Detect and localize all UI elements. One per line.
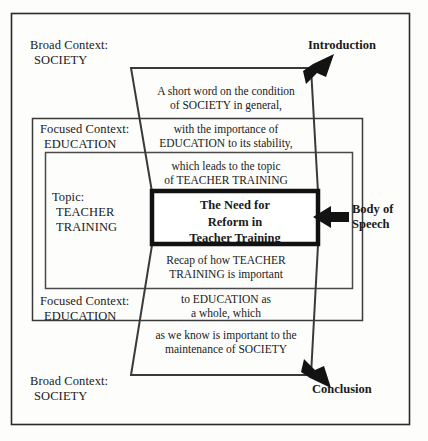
funnel-segment-1-line2: of SOCIETY in general,: [170, 99, 282, 111]
callout-introduction-label: Introduction: [308, 38, 376, 53]
context-label-broad-bottom-line2: SOCIETY: [30, 389, 108, 404]
core-topic-line2: Reform in: [208, 215, 263, 229]
core-topic-line3: Teacher Training: [189, 231, 281, 245]
context-label-focused-top-line2: EDUCATION: [40, 137, 129, 152]
funnel-segment-1-line1: A short word on the condition: [157, 85, 295, 97]
context-label-broad-bottom: Broad Context: SOCIETY: [30, 374, 108, 404]
funnel-segment-2: with the importance of EDUCATION to its …: [150, 122, 302, 151]
funnel-segment-5-line1: to EDUCATION as: [181, 293, 271, 305]
funnel-segment-4: Recap of how TEACHER TRAINING is importa…: [150, 253, 302, 282]
context-label-broad-top-line2: SOCIETY: [30, 53, 108, 68]
core-topic-line1: The Need for: [200, 198, 270, 212]
callout-body-line1: Body of: [352, 202, 393, 216]
context-label-broad-top: Broad Context: SOCIETY: [30, 38, 108, 68]
context-label-topic-line3: TRAINING: [52, 220, 117, 235]
arrow-down-left-icon: [303, 54, 334, 84]
funnel-segment-4-line2: TRAINING is important: [169, 268, 283, 280]
context-label-focused-bottom: Focused Context: EDUCATION: [40, 294, 129, 324]
core-topic-text: The Need for Reform in Teacher Training: [158, 197, 312, 247]
context-label-topic-line2: TEACHER: [52, 205, 117, 220]
context-label-focused-bottom-line2: EDUCATION: [40, 309, 129, 324]
context-label-topic: Topic: TEACHER TRAINING: [52, 190, 117, 234]
funnel-segment-6-line1: as we know is important to the: [155, 329, 296, 341]
funnel-segment-2-line1: with the importance of: [174, 123, 278, 135]
funnel-segment-3-line2: of TEACHER TRAINING: [164, 174, 288, 186]
funnel-segment-3-line1: which leads to the topic: [171, 160, 280, 172]
callout-conclusion-label: Conclusion: [312, 382, 372, 397]
context-label-broad-bottom-line1: Broad Context:: [30, 374, 108, 388]
context-label-focused-top: Focused Context: EDUCATION: [40, 122, 129, 152]
context-label-focused-bottom-line1: Focused Context:: [40, 294, 129, 308]
funnel-segment-2-line2: EDUCATION to its stability,: [159, 137, 292, 149]
context-label-topic-line1: Topic:: [52, 190, 84, 204]
funnel-segment-6-line2: maintenance of SOCIETY: [165, 343, 287, 355]
funnel-segment-3: which leads to the topic of TEACHER TRAI…: [150, 159, 302, 188]
funnel-segment-6: as we know is important to the maintenan…: [143, 328, 309, 357]
funnel-segment-5-line2: a whole, which: [191, 307, 261, 319]
funnel-segment-5: to EDUCATION as a whole, which: [150, 292, 302, 321]
callout-body-line2: Speech: [352, 217, 393, 232]
context-label-focused-top-line1: Focused Context:: [40, 122, 129, 136]
funnel-segment-4-line1: Recap of how TEACHER: [166, 254, 286, 266]
callout-body-of-speech-label: Body of Speech: [352, 202, 393, 232]
diagram-canvas: Broad Context: SOCIETY Focused Context: …: [0, 0, 428, 441]
funnel-segment-1: A short word on the condition of SOCIETY…: [150, 84, 302, 113]
context-label-broad-top-line1: Broad Context:: [30, 38, 108, 52]
